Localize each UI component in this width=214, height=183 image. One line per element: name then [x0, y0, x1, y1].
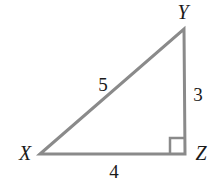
- vertex-label-x: X: [18, 142, 32, 164]
- vertex-label-y: Y: [177, 1, 190, 23]
- vertex-label-z: Z: [195, 142, 207, 164]
- triangle-xyz: [40, 29, 185, 154]
- side-length-yz: 3: [193, 84, 203, 105]
- right-triangle-diagram: X Y Z 5 3 4: [0, 0, 214, 183]
- right-angle-marker: [170, 138, 185, 154]
- side-length-xz: 4: [109, 161, 119, 182]
- side-length-xy: 5: [98, 74, 108, 95]
